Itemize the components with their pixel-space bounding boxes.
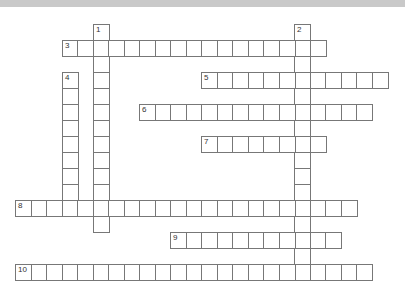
crossword-cell[interactable] — [294, 232, 311, 249]
crossword-cell[interactable] — [93, 216, 110, 233]
crossword-cell[interactable] — [62, 184, 79, 201]
crossword-cell[interactable] — [294, 152, 311, 169]
crossword-cell[interactable] — [93, 136, 110, 153]
crossword-cell[interactable] — [279, 200, 296, 217]
crossword-cell[interactable] — [93, 56, 110, 73]
crossword-cell[interactable]: 10 — [15, 264, 32, 281]
crossword-cell[interactable] — [372, 72, 389, 89]
crossword-cell[interactable] — [356, 72, 373, 89]
crossword-cell[interactable] — [201, 104, 218, 121]
clue-number: 8 — [18, 202, 22, 210]
crossword-cell[interactable] — [279, 104, 296, 121]
crossword-cell[interactable] — [139, 200, 156, 217]
crossword-cell[interactable] — [108, 264, 125, 281]
crossword-cell[interactable] — [279, 136, 296, 153]
crossword-cell[interactable]: 8 — [15, 200, 32, 217]
crossword-cell[interactable] — [46, 200, 63, 217]
crossword-cell[interactable] — [341, 200, 358, 217]
crossword-cell[interactable] — [232, 136, 249, 153]
crossword-cell[interactable] — [93, 184, 110, 201]
clue-number: 6 — [142, 106, 146, 114]
crossword-cell[interactable] — [294, 120, 311, 137]
crossword-cell[interactable] — [108, 200, 125, 217]
crossword-cell[interactable] — [62, 88, 79, 105]
crossword-cell[interactable] — [325, 200, 342, 217]
clue-number: 3 — [65, 42, 69, 50]
crossword-cell[interactable] — [201, 200, 218, 217]
crossword-cell[interactable] — [263, 232, 280, 249]
crossword-cell[interactable]: 5 — [201, 72, 218, 89]
crossword-cell[interactable] — [263, 264, 280, 281]
crossword-cell[interactable] — [201, 40, 218, 57]
crossword-cell[interactable] — [77, 40, 94, 57]
crossword-cell[interactable] — [201, 264, 218, 281]
crossword-cell[interactable]: 7 — [201, 136, 218, 153]
crossword-cell[interactable] — [93, 120, 110, 137]
crossword-cell[interactable] — [325, 104, 342, 121]
crossword-cell[interactable] — [279, 264, 296, 281]
clue-number: 1 — [96, 26, 100, 34]
crossword-cell[interactable] — [93, 88, 110, 105]
crossword-cell[interactable] — [232, 104, 249, 121]
clue-number: 5 — [204, 74, 208, 82]
crossword-cell[interactable] — [263, 72, 280, 89]
clue-number: 9 — [173, 234, 177, 242]
crossword-cell[interactable] — [139, 264, 156, 281]
crossword-cell[interactable] — [170, 104, 187, 121]
crossword-cell[interactable] — [294, 168, 311, 185]
crossword-cell[interactable]: 6 — [139, 104, 156, 121]
crossword-cell[interactable] — [279, 232, 296, 249]
crossword-cell[interactable] — [279, 72, 296, 89]
crossword-cell[interactable] — [294, 248, 311, 265]
crossword-cell[interactable] — [294, 184, 311, 201]
crossword-cell[interactable] — [108, 40, 125, 57]
crossword-cell[interactable] — [93, 72, 110, 89]
crossword-cell[interactable] — [170, 264, 187, 281]
crossword-cell[interactable]: 1 — [93, 24, 110, 41]
crossword-cell[interactable] — [62, 168, 79, 185]
crossword-cell[interactable] — [62, 136, 79, 153]
crossword-cell[interactable] — [201, 232, 218, 249]
crossword-cell[interactable] — [294, 264, 311, 281]
crossword-cell[interactable] — [263, 40, 280, 57]
crossword-cell[interactable]: 4 — [62, 72, 79, 89]
crossword-cell[interactable] — [294, 72, 311, 89]
crossword-cell[interactable] — [356, 264, 373, 281]
crossword-cell[interactable] — [294, 200, 311, 217]
crossword-cell[interactable] — [294, 88, 311, 105]
crossword-cell[interactable] — [294, 136, 311, 153]
crossword-cell[interactable] — [232, 200, 249, 217]
crossword-cell[interactable] — [170, 200, 187, 217]
crossword-cell[interactable] — [310, 40, 327, 57]
crossword-cell[interactable] — [325, 264, 342, 281]
crossword-cell[interactable] — [263, 136, 280, 153]
crossword-cell[interactable] — [170, 40, 187, 57]
crossword-cell[interactable] — [46, 264, 63, 281]
crossword-cell[interactable] — [77, 264, 94, 281]
crossword-cell[interactable] — [62, 104, 79, 121]
crossword-cell[interactable] — [232, 72, 249, 89]
crossword-cell[interactable] — [294, 104, 311, 121]
crossword-cell[interactable] — [356, 104, 373, 121]
crossword-cell[interactable] — [232, 40, 249, 57]
crossword-cell[interactable] — [325, 232, 342, 249]
crossword-cell[interactable] — [93, 168, 110, 185]
crossword-cell[interactable] — [232, 232, 249, 249]
crossword-cell[interactable] — [139, 40, 156, 57]
crossword-cell[interactable] — [325, 72, 342, 89]
crossword-cell[interactable] — [93, 104, 110, 121]
crossword-cell[interactable] — [279, 40, 296, 57]
crossword-cell[interactable] — [232, 264, 249, 281]
crossword-cell[interactable] — [263, 200, 280, 217]
crossword-cell[interactable] — [62, 120, 79, 137]
crossword-cell[interactable] — [93, 152, 110, 169]
crossword-cell[interactable] — [77, 200, 94, 217]
crossword-cell[interactable]: 9 — [170, 232, 187, 249]
crossword-cell[interactable] — [62, 152, 79, 169]
crossword-cell[interactable] — [294, 40, 311, 57]
crossword-cell[interactable] — [294, 216, 311, 233]
crossword-cell[interactable]: 2 — [294, 24, 311, 41]
crossword-cell[interactable] — [263, 104, 280, 121]
crossword-cell[interactable] — [294, 56, 311, 73]
crossword-cell[interactable] — [310, 136, 327, 153]
